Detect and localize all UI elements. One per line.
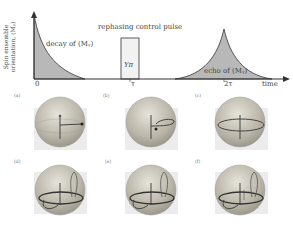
sphere-e xyxy=(125,165,178,215)
bloch-spheres xyxy=(0,0,293,227)
sphere-d xyxy=(34,165,87,215)
sphere-f xyxy=(215,165,268,215)
sphere-b xyxy=(125,97,178,150)
sphere-c xyxy=(215,97,268,150)
sphere-a xyxy=(34,97,87,150)
